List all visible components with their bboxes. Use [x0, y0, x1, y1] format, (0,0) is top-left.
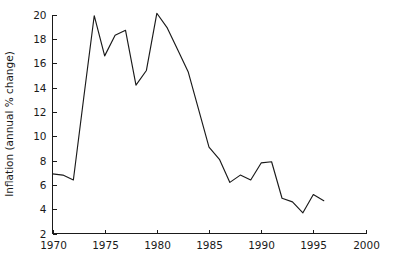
y-tick-label: 16 [33, 57, 47, 69]
y-tick-label: 18 [33, 33, 46, 45]
x-axis-tick-labels: 1970197519801985199019952000 [40, 239, 380, 251]
y-axis-title: Inflation (annual % change) [3, 51, 15, 197]
x-tick-label: 1990 [248, 239, 275, 251]
y-tick-label: 10 [33, 130, 46, 142]
inflation-series-line [53, 13, 324, 213]
x-tick-label: 1980 [144, 239, 171, 251]
x-tick-label: 1970 [40, 239, 67, 251]
y-tick-label: 8 [40, 155, 47, 167]
x-tick-label: 1995 [300, 239, 327, 251]
y-tick-label: 6 [40, 179, 47, 191]
x-tick-label: 2000 [353, 239, 380, 251]
x-tick-label: 1975 [92, 239, 119, 251]
y-tick-label: 12 [33, 106, 46, 118]
y-tick-label: 20 [33, 9, 46, 21]
chart-canvas: 2468101214161820 19701975198019851990199… [0, 0, 398, 265]
y-axis-tick-labels: 2468101214161820 [33, 9, 47, 240]
inflation-line-chart: 2468101214161820 19701975198019851990199… [0, 0, 398, 265]
x-tick-label: 1985 [196, 239, 223, 251]
y-tick-label: 14 [33, 82, 47, 94]
x-axis-tick-marks [54, 230, 367, 234]
y-tick-label: 4 [40, 203, 47, 215]
y-axis-tick-marks [53, 16, 57, 235]
